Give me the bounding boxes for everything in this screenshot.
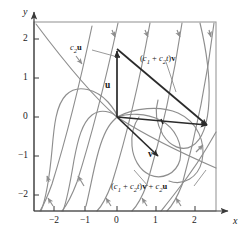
- x-tick-label-1: 1: [153, 216, 158, 226]
- x-tick-label--1: −1: [80, 216, 90, 226]
- annotation-c1c2tv: (c1 + c2t)v (c₁ + c₂t)v: [140, 54, 175, 65]
- traj-arrow-9: [176, 198, 181, 206]
- leader-sum-right: [194, 170, 206, 186]
- traj-arrow-8: [142, 198, 147, 206]
- traj-arrow-4: [177, 30, 180, 37]
- x-tick-label-2: 2: [192, 216, 197, 226]
- leader-c2u: [92, 50, 114, 56]
- vector-label-v: v: [148, 150, 153, 160]
- traj-arrow-6: [48, 198, 53, 206]
- y-axis-label: y: [23, 7, 27, 17]
- trajectory-6: [156, 23, 209, 148]
- annotation-leaders: [92, 50, 206, 186]
- annotation-sum: (c1 + c2t)v + c2u (c₁ + c₂t)v + c₂u: [111, 182, 167, 193]
- traj-arrow-10: [76, 56, 82, 64]
- y-tick-label--1: −1: [18, 151, 28, 161]
- phase-portrait-figure: −2 −1 0 1 2 2 1 0 −1 −2 x y u v c2u c₂u …: [0, 0, 248, 241]
- y-tick-label-2: 2: [23, 34, 28, 44]
- vector-label-u: u: [105, 81, 110, 91]
- x-tick-label--2: −2: [49, 216, 59, 226]
- traj-arrow-5: [209, 30, 211, 37]
- trajectory-7: [36, 24, 117, 117]
- y-tick-label--2: −2: [18, 190, 28, 200]
- streamline-6: [161, 132, 216, 211]
- x-tick-label-0: 0: [114, 216, 119, 226]
- annotation-c2u: c2u c₂u: [70, 43, 82, 54]
- traj-arrow-2: [112, 30, 115, 37]
- mark-on-resultant: [161, 119, 163, 124]
- traj-arrow-12: [78, 176, 84, 186]
- traj-arrow-11: [196, 145, 203, 152]
- trajectory-4: [117, 114, 181, 176]
- y-tick-label-0: 0: [23, 112, 28, 122]
- traj-arrow-7: [106, 198, 111, 206]
- x-axis-label: x: [233, 216, 237, 226]
- y-tick-label-1: 1: [23, 73, 28, 83]
- plot-canvas: [0, 0, 248, 241]
